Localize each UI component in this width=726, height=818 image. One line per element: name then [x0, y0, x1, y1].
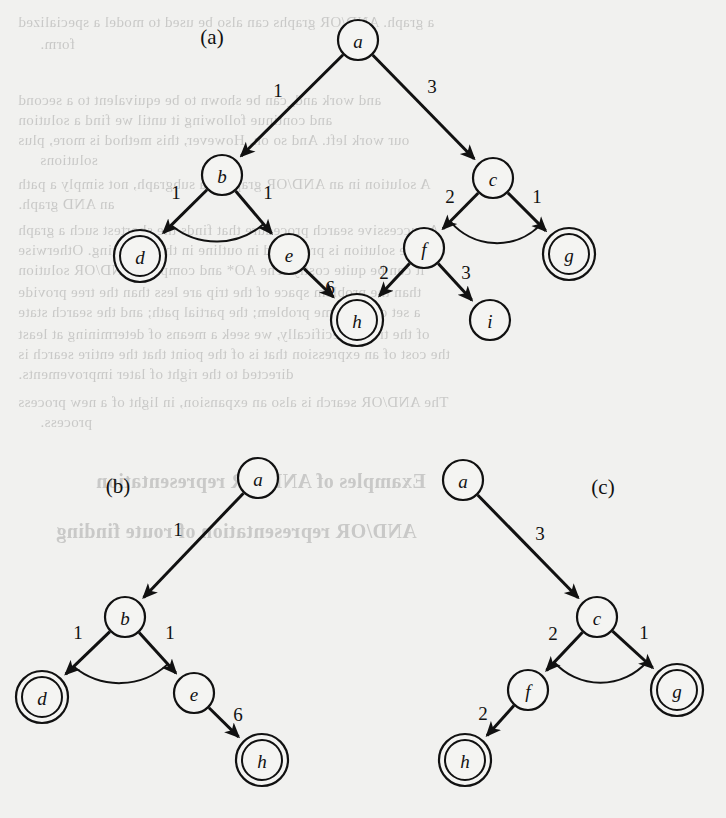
- node-label: a: [253, 469, 263, 490]
- panel-captions-layer: (a)(b)(c): [106, 25, 615, 499]
- node-label: i: [487, 311, 492, 332]
- node-label: h: [257, 751, 267, 772]
- and-connector-arc-a-b: [171, 224, 263, 242]
- node-label: h: [460, 751, 470, 772]
- edge-weight-a-e-h: 6: [325, 277, 335, 298]
- graph-node-b-b: b: [105, 597, 145, 637]
- graph-edge-c-f-h: [487, 706, 514, 736]
- edge-weight-b-b-e: 1: [165, 622, 175, 643]
- edge-weight-b-a-b: 1: [173, 519, 183, 540]
- node-label: b: [217, 166, 227, 187]
- graph-node-a-g: g: [543, 228, 595, 280]
- graph-node-c-g: g: [651, 664, 703, 716]
- edges-layer: [66, 55, 653, 737]
- graph-node-b-a: a: [238, 458, 278, 498]
- graph-node-a-a: a: [338, 20, 378, 60]
- edge-weight-c-a-c: 3: [535, 523, 545, 544]
- edge-weight-a-f-i: 3: [461, 262, 471, 283]
- node-label: g: [672, 681, 682, 702]
- node-label: e: [190, 684, 198, 705]
- graph-node-b-h: h: [236, 734, 288, 786]
- nodes-layer: abcdefghiabdehacfgh: [16, 20, 703, 786]
- node-label: g: [564, 245, 574, 266]
- node-label: c: [593, 608, 602, 629]
- graph-node-c-h: h: [439, 734, 491, 786]
- graph-node-b-d: d: [16, 671, 68, 723]
- and-connector-arc-c-c: [554, 662, 646, 683]
- graph-node-b-e: e: [174, 673, 214, 713]
- graph-node-a-e: e: [269, 234, 309, 274]
- edge-weight-b-e-h: 6: [233, 704, 243, 725]
- node-label: d: [135, 247, 145, 268]
- edge-weight-b-b-d: 1: [73, 622, 83, 643]
- graph-edge-c-a-c: [478, 495, 578, 598]
- figure-sheet: a graph. AND/OR graphs can also be used …: [0, 0, 726, 818]
- node-label: d: [37, 688, 47, 709]
- edge-weight-a-f-h: 2: [379, 262, 389, 283]
- edge-weight-a-c-g: 1: [532, 186, 542, 207]
- edge-weight-c-f-h: 2: [478, 703, 488, 724]
- edge-weight-a-a-b: 1: [273, 80, 283, 101]
- node-label: h: [352, 311, 362, 332]
- panel-caption-c: (c): [591, 475, 614, 499]
- edge-weight-c-c-f: 2: [548, 623, 558, 644]
- graph-node-a-i: i: [470, 300, 510, 340]
- graph-node-a-c: c: [473, 158, 513, 198]
- graph-edge-b-a-b: [144, 493, 244, 597]
- node-label: b: [120, 608, 130, 629]
- node-label: a: [458, 471, 468, 492]
- node-label: e: [285, 245, 293, 266]
- edge-weight-a-a-c: 3: [427, 76, 437, 97]
- edge-weight-c-c-g: 1: [639, 622, 649, 643]
- graph-node-a-b: b: [202, 155, 242, 195]
- edge-weight-labels-layer: 13112162311163212: [73, 76, 649, 725]
- edge-weight-a-b-d: 1: [171, 182, 181, 203]
- and-connector-arc-b-b: [74, 664, 168, 683]
- node-label: c: [489, 169, 498, 190]
- panel-caption-b: (b): [106, 474, 131, 498]
- graph-edge-a-a-b: [241, 55, 343, 156]
- graph-node-c-f: f: [508, 670, 548, 710]
- graph-node-c-a: a: [443, 460, 483, 500]
- graph-edge-a-a-c: [373, 55, 474, 159]
- graph-node-a-f: f: [404, 228, 444, 268]
- graph-node-a-d: d: [114, 230, 166, 282]
- graph-edge-a-b-d: [163, 190, 207, 233]
- and-or-graph-figure: abcdefghiabdehacfgh 13112162311163212 (a…: [0, 0, 726, 818]
- graph-node-c-c: c: [577, 597, 617, 637]
- edge-weight-a-b-e: 1: [263, 182, 273, 203]
- edge-weight-a-c-f: 2: [445, 186, 455, 207]
- and-connector-arcs-layer: [74, 221, 647, 683]
- graph-node-a-h: h: [331, 294, 383, 346]
- node-label: a: [353, 31, 363, 52]
- panel-caption-a: (a): [200, 25, 223, 49]
- and-connector-arc-a-c: [450, 221, 540, 243]
